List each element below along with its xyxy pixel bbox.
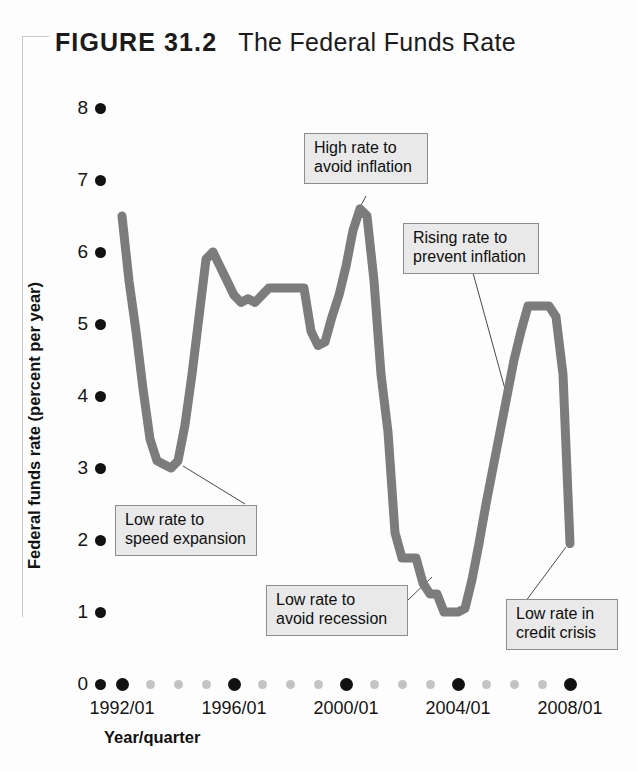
leader-line-2 <box>183 466 245 504</box>
leader-line-1 <box>470 262 508 400</box>
annotation-low-rate-speed-expansion: Low rate to speed expansion <box>115 505 257 556</box>
annotation-high-rate-avoid-inflation: High rate to avoid inflation <box>304 133 428 184</box>
annotation-low-rate-credit-crisis: Low rate in credit crisis <box>506 599 618 650</box>
annotation-low-rate-avoid-recession: Low rate to avoid recession <box>266 585 408 636</box>
annotation-rising-rate-prevent-inflation: Rising rate to prevent inflation <box>403 223 539 274</box>
figure-page: FIGURE 31.2 The Federal Funds Rate Feder… <box>0 0 637 772</box>
chart-plot-area <box>0 0 637 772</box>
